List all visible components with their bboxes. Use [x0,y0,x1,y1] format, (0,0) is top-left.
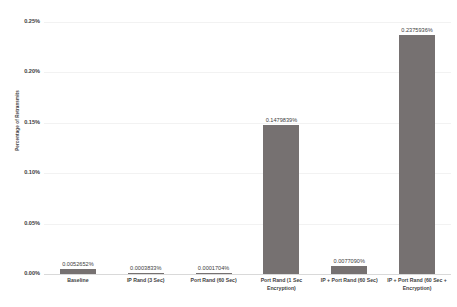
bar-value-label: 0.1479839% [247,117,315,123]
bar[interactable] [128,273,164,274]
bar-value-label: 0.0077090% [315,258,383,264]
x-tick-label: Port Rand (1 Sec Encryption) [247,277,315,292]
y-tick-label: 0.00% [8,270,40,276]
bar-value-label: 0.2375936% [383,27,451,33]
bar-chart: Percentage of Retransmits Percentage of … [0,0,457,307]
bar-slot: 0.0001704% [180,22,248,274]
y-tick-label: 0.05% [8,220,40,226]
bar-series: 0.0052652%0.0003833%0.0001704%0.1479839%… [44,22,451,274]
x-tick-label: IP + Port Rand (60 Sec) [315,277,383,292]
bar-slot: 0.2375936% [383,22,451,274]
x-tick-label: IP + Port Rand (60 Sec + Encryption) [383,277,451,292]
x-tick-label: IP Rand (3 Sec) [112,277,180,292]
bar-slot: 0.0052652% [44,22,112,274]
bar-value-label: 0.0003833% [112,265,180,271]
bar-slot: 0.0077090% [315,22,383,274]
bar-value-label: 0.0001704% [180,265,248,271]
bar[interactable] [331,266,367,274]
bar-slot: 0.0003833% [112,22,180,274]
x-axis-labels: BaselineIP Rand (3 Sec)Port Rand (60 Sec… [44,277,451,292]
y-tick-label: 0.10% [8,169,40,175]
x-tick-label: Baseline [44,277,112,292]
bar[interactable] [196,273,232,274]
x-axis-line [44,274,451,275]
y-tick-label: 0.25% [8,18,40,24]
bar-slot: 0.1479839% [247,22,315,274]
bar-value-label: 0.0052652% [44,261,112,267]
bar[interactable] [263,125,299,274]
bar[interactable] [399,35,435,274]
y-tick-label: 0.20% [8,68,40,74]
x-tick-label: Port Rand (60 Sec) [180,277,248,292]
bar[interactable] [60,269,96,274]
y-tick-label: 0.15% [8,119,40,125]
